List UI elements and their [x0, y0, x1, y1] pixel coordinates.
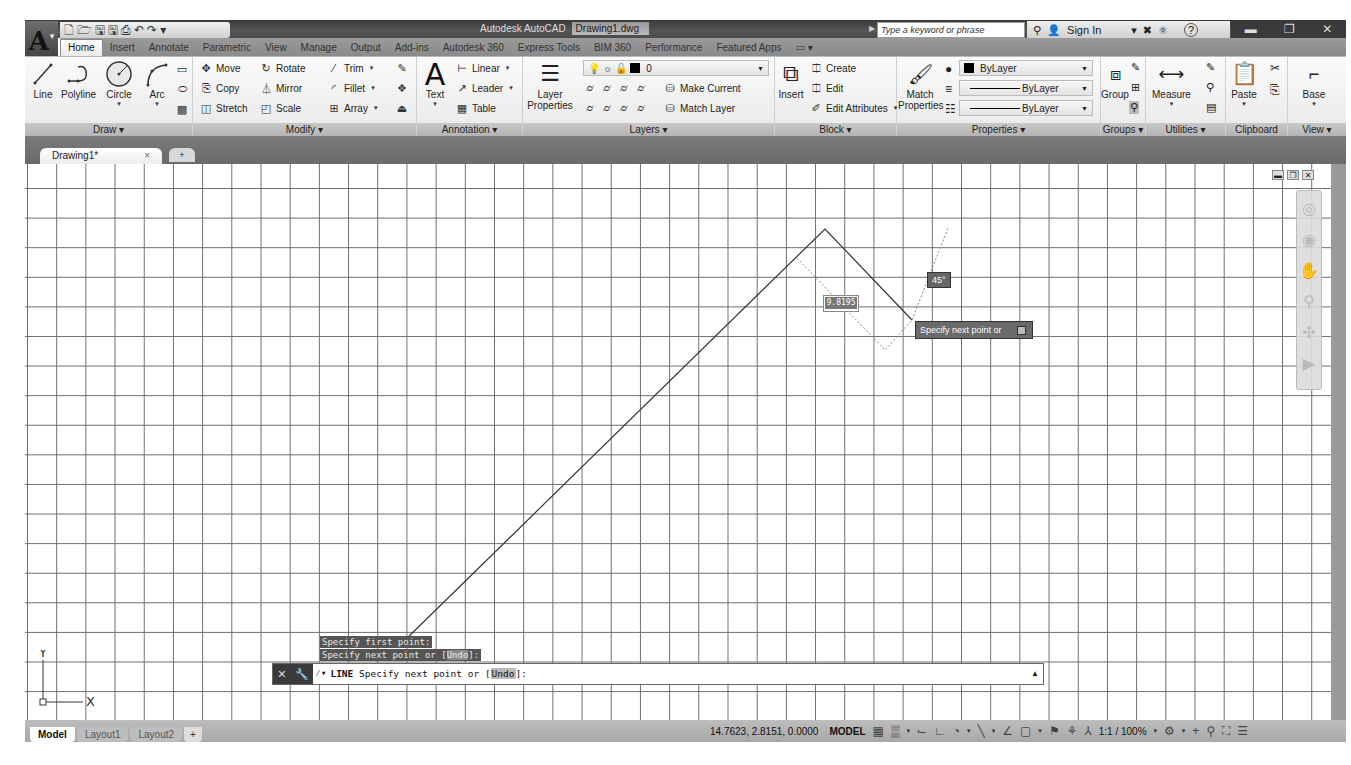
- tab-annotate[interactable]: Annotate: [142, 40, 196, 56]
- explode-button[interactable]: ❖: [395, 80, 409, 96]
- line-button[interactable]: Line: [29, 59, 57, 100]
- minimize-icon[interactable]: ▬: [1245, 22, 1257, 36]
- auto-scale-icon[interactable]: ⚘: [1067, 724, 1078, 738]
- workspace-gear-icon[interactable]: ⚙: [1164, 724, 1175, 738]
- recent-commands-icon[interactable]: ⁄▾: [315, 667, 326, 679]
- command-history-expand-icon[interactable]: ▲: [1031, 669, 1039, 678]
- customize-qat-icon[interactable]: ▾: [160, 23, 166, 37]
- isometric-drafting-icon[interactable]: ╲: [978, 724, 985, 738]
- dynamic-input-length[interactable]: 9.8195: [823, 295, 859, 312]
- save-as-icon[interactable]: 🖫: [108, 23, 118, 37]
- group-edit-icon[interactable]: ⊞: [1131, 81, 1140, 94]
- circle-button[interactable]: Circle ▾: [105, 59, 133, 107]
- annotation-visibility-icon[interactable]: ⚑: [1049, 724, 1060, 738]
- edit-block-button[interactable]: ⎅Edit: [809, 80, 843, 96]
- restore-icon[interactable]: ❐: [1284, 22, 1295, 36]
- grid-icon[interactable]: ▦: [873, 724, 884, 738]
- application-menu-button[interactable]: A▾: [25, 21, 58, 61]
- layer-properties-button[interactable]: ☰ Layer Properties: [527, 59, 573, 111]
- panel-block-title[interactable]: Block ▾: [775, 123, 896, 137]
- id-point-icon[interactable]: ✎: [1206, 61, 1215, 74]
- customize-command-icon[interactable]: 🔧: [295, 668, 309, 681]
- close-tab-icon[interactable]: ×: [144, 150, 150, 162]
- ellipse-button[interactable]: ⬭: [175, 81, 189, 97]
- move-button[interactable]: ✥Move: [199, 60, 240, 76]
- tab-performance[interactable]: Performance: [638, 40, 709, 56]
- fillet-button[interactable]: ◜Fillet▾: [327, 80, 375, 96]
- steering-wheel-icon[interactable]: ◎: [1302, 199, 1316, 218]
- viewport-minimize-icon[interactable]: ▬: [1272, 170, 1284, 180]
- search-expand-icon[interactable]: ▶: [869, 24, 875, 33]
- group-selection-icon[interactable]: ⚲: [1129, 101, 1139, 114]
- coordinates-display[interactable]: 14.7623, 2.8151, 0.0000: [710, 726, 818, 737]
- binoculars-search-icon[interactable]: ⚲: [1033, 24, 1041, 37]
- exchange-apps-icon[interactable]: ✖: [1143, 24, 1152, 37]
- panel-layers-title[interactable]: Layers ▾: [523, 123, 774, 137]
- customization-menu-icon[interactable]: ☰: [1237, 724, 1248, 738]
- user-icon[interactable]: 👤: [1047, 24, 1061, 37]
- tab-bim-360[interactable]: BIM 360: [587, 40, 638, 56]
- tooltip-options-icon[interactable]: [1017, 326, 1026, 335]
- layer-unisolate-icon[interactable]: ⌭: [600, 101, 614, 115]
- quick-select-icon[interactable]: ⚲: [1206, 81, 1214, 94]
- layer-lock-icon[interactable]: ⌭: [634, 81, 648, 95]
- edit-attributes-button[interactable]: ✐Edit Attributes▾: [809, 100, 897, 116]
- clean-screen-icon[interactable]: ⛶: [1222, 724, 1230, 738]
- layer-isolate-icon[interactable]: ⌭: [600, 81, 614, 95]
- full-navigation-wheel-icon[interactable]: ◉: [1302, 230, 1316, 249]
- tab-home[interactable]: Home: [60, 39, 103, 56]
- offset-button[interactable]: ⏏: [395, 100, 409, 116]
- zoom-extents-icon[interactable]: ⚲: [1303, 292, 1315, 311]
- annotation-scale-icon[interactable]: ⅄: [1084, 724, 1091, 738]
- orbit-icon[interactable]: ✣: [1302, 323, 1315, 342]
- rectangle-button[interactable]: ▭: [175, 61, 189, 77]
- text-button[interactable]: A Text ▾: [421, 59, 449, 107]
- layer-freeze-icon[interactable]: ⌭: [617, 81, 631, 95]
- match-properties-button[interactable]: 🖌 Match Properties: [899, 59, 941, 111]
- ortho-icon[interactable]: ∟: [934, 724, 946, 738]
- panel-annotation-title[interactable]: Annotation ▾: [417, 123, 522, 137]
- new-drawing-tab[interactable]: +: [169, 148, 195, 162]
- plus-icon[interactable]: +: [1192, 724, 1199, 738]
- ungroup-icon[interactable]: ✎: [1131, 61, 1140, 74]
- tab-layout1[interactable]: Layout1: [77, 727, 129, 742]
- table-button[interactable]: ▦Table: [455, 100, 496, 116]
- object-snap-tracking-icon[interactable]: ∠: [1002, 724, 1013, 738]
- calculator-icon[interactable]: ▤: [1206, 101, 1216, 114]
- sign-in-button[interactable]: Sign In: [1067, 24, 1101, 36]
- command-input[interactable]: ⁄▾ LINE Specify next point or [Undo]:: [315, 667, 527, 679]
- match-layer-button[interactable]: ⛁Match Layer: [663, 100, 735, 116]
- annotation-scale-value[interactable]: 1:1 / 100%: [1099, 726, 1147, 737]
- tab-view[interactable]: View: [258, 40, 294, 56]
- viewport-restore-icon[interactable]: ❐: [1287, 170, 1299, 180]
- tab-autodesk-360[interactable]: Autodesk 360: [436, 40, 511, 56]
- tab-add-ins[interactable]: Add-ins: [388, 40, 436, 56]
- panel-view-title[interactable]: View ▾: [1288, 123, 1346, 137]
- panel-modify-title[interactable]: Modify ▾: [193, 123, 416, 137]
- panel-draw-title[interactable]: Draw ▾: [25, 123, 192, 137]
- object-snap-icon[interactable]: ▢: [1020, 724, 1031, 738]
- showmotion-icon[interactable]: ▶: [1303, 354, 1315, 373]
- ribbon-state-toggle-icon[interactable]: ▭ ▾: [788, 40, 819, 56]
- tab-model[interactable]: Model: [30, 727, 75, 742]
- tab-manage[interactable]: Manage: [294, 40, 344, 56]
- layer-thaw-all-icon[interactable]: ⌭: [617, 101, 631, 115]
- panel-utilities-title[interactable]: Utilities ▾: [1146, 123, 1225, 137]
- panel-groups-title[interactable]: Groups ▾: [1101, 123, 1145, 137]
- save-icon[interactable]: 🖫: [95, 23, 105, 37]
- new-layout-tab[interactable]: +: [184, 727, 202, 742]
- linetype-dropdown[interactable]: ByLayer ▼: [959, 80, 1093, 96]
- make-current-button[interactable]: ⛁Make Current: [663, 80, 741, 96]
- infer-constraints-icon[interactable]: ⌙: [917, 724, 927, 738]
- base-view-button[interactable]: ⌐ Base ▾: [1300, 59, 1328, 107]
- tab-output[interactable]: Output: [344, 40, 388, 56]
- layer-on-all-icon[interactable]: ⌭: [583, 101, 597, 115]
- help-icon[interactable]: ?: [1184, 23, 1198, 37]
- layer-unlock-all-icon[interactable]: ⌭: [634, 101, 648, 115]
- viewport-close-icon[interactable]: ✕: [1302, 170, 1314, 180]
- isolate-objects-icon[interactable]: ⚲: [1206, 724, 1215, 738]
- tab-parametric[interactable]: Parametric: [196, 40, 258, 56]
- panel-clipboard-title[interactable]: Clipboard: [1226, 123, 1287, 137]
- search-input[interactable]: Type a keyword or phrase: [877, 22, 1025, 38]
- arc-button[interactable]: Arc ▾: [143, 59, 171, 107]
